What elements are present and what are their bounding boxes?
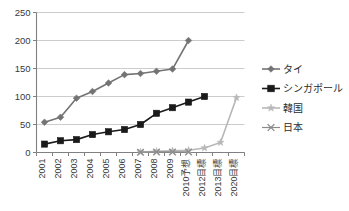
legend-label-3: 日本: [283, 121, 303, 133]
legend-label-2: 韓国: [283, 103, 303, 114]
x-tick-label-1: 2002: [53, 159, 63, 179]
legend-label-0: タイ: [283, 64, 303, 75]
y-tick-label-0: 0: [25, 147, 30, 158]
x-tick-label-5: 2006: [117, 159, 127, 179]
marker-square: [105, 129, 111, 135]
marker-square: [185, 99, 191, 105]
marker-square: [169, 105, 175, 111]
y-tick-label-100: 100: [15, 91, 31, 102]
marker-square: [137, 121, 143, 127]
y-tick-label-50: 50: [20, 119, 31, 130]
x-tick-label-12: 2020目標: [228, 159, 239, 197]
marker-square: [121, 126, 127, 132]
marker-square: [268, 85, 275, 92]
x-tick-label-9: 2010予想: [180, 159, 191, 197]
x-tick-label-7: 2008: [149, 159, 159, 179]
marker-square: [89, 131, 95, 137]
x-tick-label-10: 2012目標: [196, 159, 207, 197]
y-tick-label-150: 150: [15, 63, 31, 74]
x-tick-label-6: 2007: [133, 159, 143, 179]
x-tick-label-2: 2003: [69, 159, 79, 179]
marker-square: [153, 110, 159, 116]
y-tick-label-250: 250: [15, 7, 31, 18]
x-tick-label-3: 2004: [85, 159, 95, 179]
marker-square: [73, 137, 79, 143]
x-tick-label-0: 2001: [37, 159, 47, 179]
marker-square: [201, 93, 207, 99]
legend-label-1: シンガポール: [283, 83, 343, 94]
chart-canvas: 050100150200250 200120022003200420052006…: [0, 0, 349, 211]
x-tick-label-8: 2009: [165, 159, 175, 179]
marker-square: [41, 141, 47, 147]
marker-square: [57, 138, 63, 144]
y-tick-label-200: 200: [15, 35, 31, 46]
x-tick-label-11: 2013目標: [212, 159, 223, 197]
line-chart: 050100150200250 200120022003200420052006…: [0, 0, 349, 211]
x-tick-label-4: 2005: [101, 159, 111, 179]
